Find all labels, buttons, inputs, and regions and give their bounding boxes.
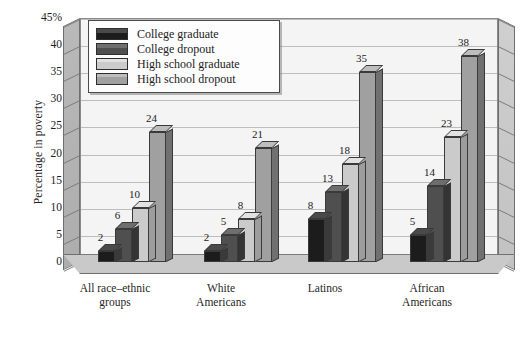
x-axis-group-label: WhiteAmericans bbox=[168, 282, 274, 309]
bar-value-label: 10 bbox=[120, 188, 149, 200]
bar-value-label: 38 bbox=[449, 36, 478, 48]
bar-side-face bbox=[461, 134, 468, 262]
bar-value-label: 23 bbox=[432, 117, 461, 129]
right-depth-wall bbox=[498, 18, 515, 270]
bar-value-label: 35 bbox=[347, 52, 376, 64]
bar bbox=[410, 235, 427, 262]
y-axis-tick-labels: 45%4035302520151050 bbox=[16, 0, 62, 343]
poverty-by-education-bar-chart: Percentage in poverty 45%403530252015105… bbox=[0, 0, 529, 343]
wall-gridline bbox=[499, 236, 514, 244]
bar-value-label: 14 bbox=[415, 166, 444, 178]
wall-gridline bbox=[64, 155, 79, 163]
x-axis-group-label-line: African bbox=[374, 282, 480, 296]
y-axis-tick-label: 10 bbox=[16, 202, 62, 214]
bar bbox=[204, 251, 221, 262]
legend-swatch-high-school-graduate bbox=[96, 58, 128, 70]
wall-gridline bbox=[64, 209, 79, 217]
wall-gridline bbox=[64, 236, 79, 244]
legend-label: High school graduate bbox=[137, 58, 240, 70]
wall-gridline bbox=[64, 19, 79, 27]
x-axis-group-label-line: groups bbox=[62, 296, 168, 310]
x-axis-group-label-line: Americans bbox=[168, 296, 274, 310]
bar-side-face bbox=[444, 183, 451, 262]
y-axis-tick-label: 25 bbox=[16, 120, 62, 132]
bar-value-label: 6 bbox=[103, 209, 132, 221]
bar-side-face bbox=[166, 128, 173, 262]
legend-label: High school dropout bbox=[137, 73, 236, 85]
y-axis-tick-label: 5 bbox=[16, 229, 62, 241]
wall-gridline bbox=[64, 101, 79, 109]
bar-front-face bbox=[410, 235, 427, 262]
x-axis-group-label-line: All race–ethnic bbox=[62, 282, 168, 296]
legend-item: College dropout bbox=[96, 41, 272, 56]
wall-gridline bbox=[64, 47, 79, 55]
legend-swatch-college-graduate bbox=[96, 28, 128, 40]
left-depth-wall bbox=[63, 18, 80, 270]
wall-gridline bbox=[499, 128, 514, 136]
bar-value-label: 5 bbox=[209, 215, 238, 227]
wall-gridline bbox=[499, 155, 514, 163]
y-axis-tick-label: 30 bbox=[16, 93, 62, 105]
bar-value-label: 18 bbox=[330, 144, 359, 156]
wall-gridline bbox=[499, 74, 514, 82]
x-axis-group-label: AfricanAmericans bbox=[374, 282, 480, 309]
wall-gridline bbox=[64, 128, 79, 136]
bar-group: 5142338 bbox=[410, 18, 486, 262]
bar-value-label: 8 bbox=[226, 199, 255, 211]
bar-side-face bbox=[272, 145, 279, 262]
bar-front-face bbox=[98, 251, 115, 262]
legend-swatch-college-dropout bbox=[96, 43, 128, 55]
legend-item: High school graduate bbox=[96, 56, 272, 71]
y-axis-tick-label: 15 bbox=[16, 175, 62, 187]
bar-value-label: 24 bbox=[137, 112, 166, 124]
bar-side-face bbox=[359, 161, 366, 262]
wall-gridline bbox=[64, 182, 79, 190]
x-axis-group-label-line: Americans bbox=[374, 296, 480, 310]
x-axis-group-labels: All race–ethnicgroupsWhiteAmericansLatin… bbox=[63, 282, 515, 338]
x-axis-group-label-line: White bbox=[168, 282, 274, 296]
bar-side-face bbox=[427, 231, 434, 262]
y-axis-tick-label: 40 bbox=[16, 39, 62, 51]
bar-side-face bbox=[342, 188, 349, 262]
x-axis-group-label: All race–ethnicgroups bbox=[62, 282, 168, 309]
y-axis-tick-label: 0 bbox=[16, 256, 62, 268]
bar-value-label: 13 bbox=[313, 172, 342, 184]
wall-gridline bbox=[499, 47, 514, 55]
bar-side-face bbox=[325, 215, 332, 262]
bar-side-face bbox=[376, 69, 383, 262]
legend-item: College graduate bbox=[96, 26, 272, 41]
bar-side-face bbox=[478, 53, 485, 262]
bar bbox=[98, 251, 115, 262]
bar-value-label: 2 bbox=[86, 231, 115, 243]
bar bbox=[308, 219, 325, 262]
bar-side-face bbox=[255, 215, 262, 262]
bar-value-label: 5 bbox=[398, 215, 427, 227]
bar-side-face bbox=[132, 226, 139, 262]
bar-side-face bbox=[149, 204, 156, 262]
bar-front-face bbox=[204, 251, 221, 262]
x-axis-group-label: Latinos bbox=[272, 282, 378, 296]
bar-value-label: 21 bbox=[243, 128, 272, 140]
bar-front-face bbox=[308, 219, 325, 262]
bar-value-label: 2 bbox=[192, 231, 221, 243]
y-axis-tick-label: 45% bbox=[16, 12, 62, 24]
legend-label: College graduate bbox=[137, 28, 219, 40]
x-axis-group-label-line: Latinos bbox=[272, 282, 378, 296]
wall-gridline bbox=[64, 74, 79, 82]
y-axis-tick-label: 35 bbox=[16, 66, 62, 78]
bar-group: 8131835 bbox=[308, 18, 384, 262]
legend-swatch-high-school-dropout bbox=[96, 73, 128, 85]
wall-gridline bbox=[499, 182, 514, 190]
legend-label: College dropout bbox=[137, 43, 215, 55]
bar-value-label: 8 bbox=[296, 199, 325, 211]
legend-item: High school dropout bbox=[96, 71, 272, 86]
legend: College graduate College dropout High sc… bbox=[88, 20, 280, 93]
bar-side-face bbox=[238, 231, 245, 262]
y-axis-tick-label: 20 bbox=[16, 148, 62, 160]
wall-gridline bbox=[499, 101, 514, 109]
wall-gridline bbox=[499, 209, 514, 217]
wall-gridline bbox=[499, 19, 514, 27]
